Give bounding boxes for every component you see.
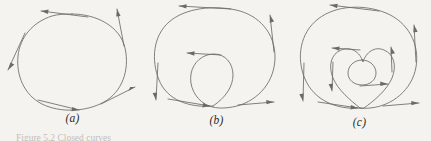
tangent-arrow-a-right-upper (116, 9, 124, 46)
tangent-arrow-a-left (8, 33, 25, 70)
figure-caption: Figure 5.2 Closed curves (16, 133, 111, 141)
curve-c-middle-path (331, 49, 395, 108)
tangent-arrow-b-right (270, 15, 274, 52)
curve-c-outer-path (300, 7, 416, 108)
curve-a-path (18, 14, 127, 110)
panel-label-c: (c) (288, 116, 431, 128)
figure-panel-b: (b) (143, 0, 290, 141)
tangent-arrow-b-inner (187, 51, 221, 55)
figure-container: (a) (0, 0, 431, 141)
tangent-arrow-c-inner (360, 82, 388, 86)
panel-label-b: (b) (143, 114, 290, 126)
tangent-arrow-c-bottom-left (318, 102, 358, 109)
figure-panel-a: (a) (0, 0, 145, 141)
curve-b-path (154, 8, 275, 108)
panel-label-a: (a) (0, 112, 145, 124)
tangent-arrow-a-top (41, 10, 88, 17)
figure-panel-c: (c) (288, 0, 431, 141)
tangent-arrow-c-middle-top (332, 46, 360, 50)
curve-c-inner-path (348, 60, 376, 85)
tangent-arrow-c-bottom-right (383, 101, 419, 106)
figure-caption-text: Figure 5.2 Closed curves (16, 133, 111, 141)
tangent-arrow-b-bottom (238, 100, 274, 105)
